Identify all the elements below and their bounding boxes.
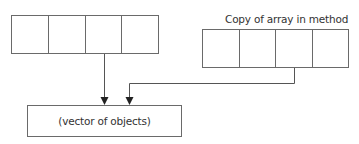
arrow-copy-to-vector: [126, 68, 295, 105]
diagram-canvas: Copy of array in method (vector of objec…: [0, 0, 359, 144]
arrow-original-to-vector: [101, 54, 109, 105]
arrowhead-down-icon: [126, 97, 134, 105]
arrowhead-down-icon: [101, 97, 109, 105]
connector-arrows: [0, 0, 359, 144]
